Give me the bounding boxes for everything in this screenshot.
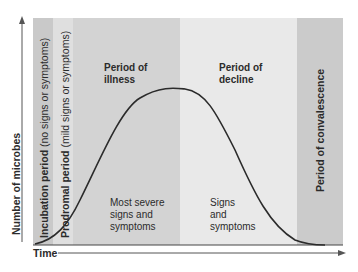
- convalescence-label: Period of convalescence: [314, 69, 326, 192]
- incubation-label: Incubation period (no signs or symptoms): [38, 38, 50, 238]
- incubation-name: Incubation period: [38, 150, 50, 238]
- illness-title: Period ofillness: [104, 62, 147, 86]
- prodromal-name: Prodromal period: [59, 150, 71, 238]
- prodromal-note: (mild signs or symptoms): [59, 31, 71, 148]
- illness-desc: Most severesigns andsymptoms: [110, 197, 164, 233]
- x-arrow-icon: [338, 250, 346, 256]
- prodromal-label: Prodromal period (mild signs or symptoms…: [59, 31, 71, 238]
- y-arrow-icon: [19, 16, 25, 24]
- incubation-note: (no signs or symptoms): [38, 38, 50, 147]
- y-axis-label: Number of microbes: [10, 133, 22, 235]
- x-axis-label: Time: [33, 247, 57, 259]
- decline-desc: Signsandsymptoms: [210, 197, 256, 233]
- convalescence-name: Period of convalescence: [314, 69, 326, 192]
- axes-and-curve: [0, 0, 358, 272]
- decline-title: Period ofdecline: [219, 62, 262, 86]
